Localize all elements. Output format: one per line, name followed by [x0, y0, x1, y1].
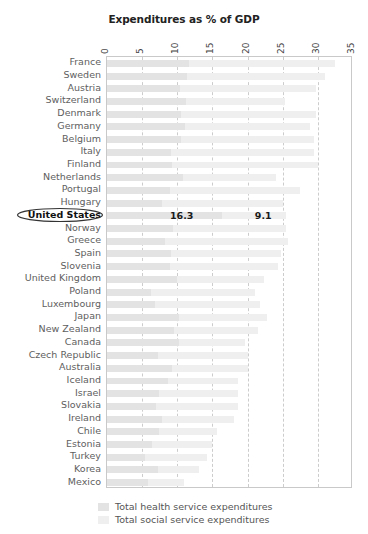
bar-segment-health — [107, 85, 180, 92]
y-axis-label-australia: Australia — [59, 362, 101, 372]
bar-segment-social — [162, 200, 283, 207]
bar-segment-social — [155, 301, 260, 308]
bar-segment-health — [107, 149, 171, 156]
bar-row — [107, 301, 351, 308]
bar-segment-social — [168, 378, 238, 385]
bar-segment-social — [145, 454, 207, 461]
bar-segment-health — [107, 123, 185, 130]
bar-segment-health — [107, 301, 155, 308]
value-label-health: 16.3 — [170, 211, 193, 221]
plot-area: 16.39.1 — [106, 56, 352, 488]
bar-row — [107, 60, 351, 67]
y-axis-label-japan: Japan — [75, 311, 102, 321]
bar-segment-health — [107, 238, 165, 245]
y-axis-label-estonia: Estonia — [66, 439, 101, 449]
bar-segment-social — [181, 111, 317, 118]
bar-row — [107, 352, 351, 359]
bar-row — [107, 289, 351, 296]
bar-segment-social — [170, 187, 299, 194]
bar-row — [107, 441, 351, 448]
bar-segment-social — [186, 98, 285, 105]
bar-segment-social — [179, 314, 267, 321]
bar-segment-social — [172, 365, 248, 372]
y-axis-label-portugal: Portugal — [62, 184, 101, 194]
bar-row — [107, 225, 351, 232]
bar-segment-social — [148, 479, 183, 486]
y-axis-label-denmark: Denmark — [57, 108, 101, 118]
bar-row — [107, 327, 351, 334]
bar-row — [107, 136, 351, 143]
y-axis-label-france: France — [69, 57, 101, 67]
bar-segment-social — [151, 289, 254, 296]
bar-row — [107, 416, 351, 423]
y-axis-label-norway: Norway — [65, 223, 101, 233]
y-axis-label-italy: Italy — [80, 146, 101, 156]
y-axis-label-netherlands: Netherlands — [43, 172, 101, 182]
bar-segment-health — [107, 162, 172, 169]
y-axis-label-switzerland: Switzerland — [46, 95, 101, 105]
bar-row — [107, 98, 351, 105]
bar-segment-social — [156, 403, 238, 410]
bar-segment-health — [107, 416, 162, 423]
bar-row — [107, 123, 351, 130]
bar-segment-health — [107, 225, 173, 232]
bar-segment-social — [158, 466, 199, 473]
y-axis-label-canada: Canada — [65, 337, 101, 347]
x-tick-label: 10 — [171, 43, 180, 54]
bar-segment-health — [107, 250, 171, 257]
y-axis-label-greece: Greece — [67, 235, 101, 245]
bar-segment-health — [107, 441, 152, 448]
y-axis-label-finland: Finland — [67, 159, 101, 169]
bar-segment-health — [107, 276, 177, 283]
bar-row — [107, 111, 351, 118]
legend-item: Total social service expenditures — [98, 513, 272, 526]
bar-segment-social — [159, 390, 238, 397]
legend: Total health service expendituresTotal s… — [98, 500, 272, 526]
y-axis-label-slovakia: Slovakia — [61, 400, 101, 410]
y-axis-label-luxembourg: Luxembourg — [42, 299, 101, 309]
bar-rows — [107, 57, 351, 487]
legend-swatch — [98, 503, 109, 511]
bar-segment-social — [158, 352, 248, 359]
bar-row — [107, 174, 351, 181]
bar-segment-health — [107, 365, 172, 372]
bar-segment-health — [107, 327, 174, 334]
bar-segment-health — [107, 73, 187, 80]
bar-row — [107, 162, 351, 169]
legend-swatch — [98, 516, 109, 524]
y-axis-label-chile: Chile — [77, 426, 101, 436]
bar-segment-health — [107, 378, 168, 385]
bar-row — [107, 263, 351, 270]
bar-segment-social — [177, 276, 265, 283]
bar-segment-health — [107, 174, 183, 181]
bar-segment-health — [107, 98, 186, 105]
bar-row — [107, 466, 351, 473]
y-axis-label-iceland: Iceland — [67, 375, 101, 385]
value-label-social: 9.1 — [255, 211, 272, 221]
bar-row — [107, 276, 351, 283]
bar-segment-health — [107, 454, 145, 461]
bar-segment-social — [222, 212, 286, 219]
y-axis-label-mexico: Mexico — [68, 477, 101, 487]
y-axis-label-ireland: Ireland — [68, 413, 101, 423]
bar-segment-social — [170, 263, 278, 270]
bar-segment-social — [180, 85, 316, 92]
x-tick-label: 25 — [277, 43, 286, 54]
bar-row — [107, 365, 351, 372]
y-axis-label-poland: Poland — [69, 286, 101, 296]
bar-segment-social — [171, 149, 314, 156]
bar-segment-social — [185, 123, 310, 130]
bar-row — [107, 200, 351, 207]
bar-row — [107, 85, 351, 92]
bar-row — [107, 454, 351, 461]
legend-item: Total health service expenditures — [98, 500, 272, 513]
y-axis-label-hungary: Hungary — [60, 197, 101, 207]
legend-label: Total health service expenditures — [115, 502, 272, 512]
bar-segment-health — [107, 352, 158, 359]
y-axis-label-united-states: United States — [28, 210, 101, 220]
bar-segment-social — [183, 174, 276, 181]
bar-row — [107, 428, 351, 435]
bar-segment-health — [107, 263, 170, 270]
x-tick-label: 35 — [347, 43, 356, 54]
bar-segment-health — [107, 403, 156, 410]
